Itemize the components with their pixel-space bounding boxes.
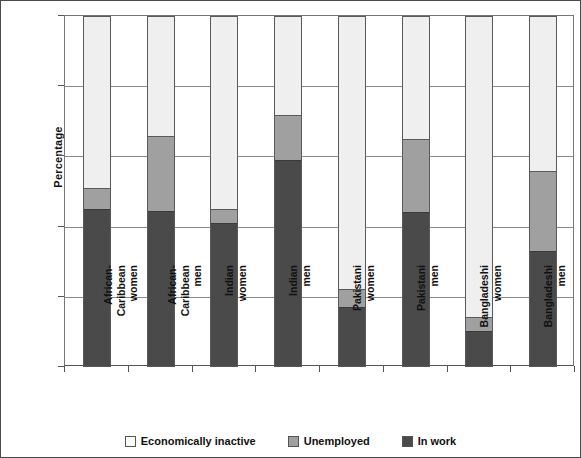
bar-segment-inactive	[339, 17, 365, 289]
bar-segment-unemployed	[84, 188, 110, 209]
x-tick-mark	[510, 366, 511, 372]
bar-segment-unemployed	[148, 136, 174, 211]
legend-swatch-inwork	[402, 436, 413, 447]
bar-segment-unemployed	[530, 171, 556, 251]
legend-swatch-unemployed	[288, 436, 299, 447]
legend-item[interactable]: In work	[402, 435, 457, 447]
bar-segment-inactive	[275, 17, 301, 115]
bar-segment-inactive	[211, 17, 237, 209]
x-axis-category-label: African- Caribbean men	[166, 265, 204, 375]
x-axis-category-label: Pakistani men	[415, 265, 440, 375]
bar-segment-unemployed	[211, 209, 237, 223]
chart-legend: Economically inactiveUnemployedIn work	[1, 435, 580, 447]
x-axis-category-label: Indian men	[287, 265, 312, 375]
bar-segment-inactive	[530, 17, 556, 171]
x-tick-mark	[255, 366, 256, 372]
legend-label: Economically inactive	[141, 435, 256, 447]
bar-segment-unemployed	[403, 139, 429, 212]
legend-label: In work	[418, 435, 457, 447]
x-tick-mark	[383, 366, 384, 372]
legend-label: Unemployed	[304, 435, 370, 447]
x-axis-category-label: Bangladeshi men	[542, 265, 567, 375]
x-tick-mark	[64, 366, 65, 372]
bar-segment-unemployed	[275, 115, 301, 160]
x-tick-mark	[447, 366, 448, 372]
bar-segment-inactive	[403, 17, 429, 139]
legend-item[interactable]: Economically inactive	[125, 435, 256, 447]
x-axis-category-label: African- Caribbean women	[102, 265, 140, 375]
bar-segment-inactive	[84, 17, 110, 188]
legend-swatch-inactive	[125, 436, 136, 447]
x-axis-category-label: Indian women	[223, 265, 248, 375]
x-tick-mark	[574, 366, 575, 372]
bar-segment-inactive	[148, 17, 174, 136]
x-axis-category-label: Bangladeshi women	[478, 265, 503, 375]
x-tick-mark	[128, 366, 129, 372]
legend-item[interactable]: Unemployed	[288, 435, 370, 447]
y-axis-title: Percentage	[52, 97, 64, 217]
x-tick-mark	[319, 366, 320, 372]
x-tick-mark	[192, 366, 193, 372]
chart-figure: Percentage 020406080100 African- Caribbe…	[0, 0, 581, 458]
x-axis-category-label: Pakistani women	[351, 265, 376, 375]
